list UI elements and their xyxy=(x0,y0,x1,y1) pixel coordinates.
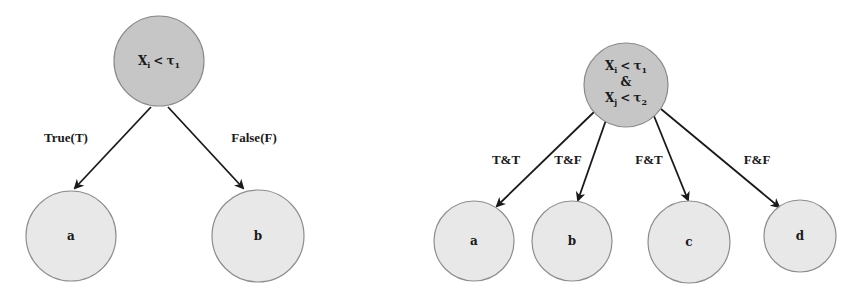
leaf-node-a: a xyxy=(434,201,514,281)
leaf-label: a xyxy=(470,234,478,248)
edge-false xyxy=(168,107,243,188)
var-subscript: j xyxy=(613,97,617,107)
edge-true xyxy=(75,107,151,188)
leaf-node-b: b xyxy=(212,190,304,282)
leaf-label: b xyxy=(254,229,262,243)
edge-label-tf: T&F xyxy=(554,152,582,167)
operator: < xyxy=(153,54,163,68)
leaf-label: d xyxy=(796,229,805,243)
var-subscript: i xyxy=(147,60,150,70)
root-node: Xi<τ1 xyxy=(114,16,204,106)
threshold-subscript: 1 xyxy=(174,60,180,70)
threshold-subscript: 1 xyxy=(641,65,647,75)
root-node: Xi<τ1 & Xj<τ2 xyxy=(584,43,668,127)
root-condition-line2: Xj<τ2 xyxy=(605,91,647,107)
threshold-subscript: 2 xyxy=(641,97,647,107)
threshold: τ xyxy=(633,59,641,73)
leaf-node-a: a xyxy=(26,191,116,281)
leaf-label: c xyxy=(685,235,692,249)
var-subscript: i xyxy=(614,65,617,75)
operator: < xyxy=(620,59,630,73)
leaf-node-b: b xyxy=(532,201,612,281)
threshold: τ xyxy=(166,54,174,68)
binary-split-tree: True(T) False(F) Xi<τ1 a b xyxy=(26,16,304,282)
four-way-split-tree: T&T T&F F&T F&F Xi<τ1 & Xj<τ2 a b c d xyxy=(434,43,836,283)
edge-label-false: False(F) xyxy=(231,130,276,145)
leaf-node-c: c xyxy=(648,201,730,283)
root-condition-joiner: & xyxy=(621,75,632,89)
root-condition: Xi<τ1 xyxy=(138,54,180,70)
leaf-node-d: d xyxy=(764,200,836,272)
root-condition-line1: Xi<τ1 xyxy=(605,59,647,75)
decision-tree-figure: True(T) False(F) Xi<τ1 a b T&T T&F F&T F… xyxy=(0,0,861,301)
edge-label-ff: F&F xyxy=(744,152,771,167)
leaf-label: b xyxy=(568,234,576,248)
edge-tf xyxy=(578,120,606,200)
threshold: τ xyxy=(633,91,641,105)
edge-label-true: True(T) xyxy=(44,130,88,145)
operator: < xyxy=(620,91,630,105)
edge-label-tt: T&T xyxy=(492,152,521,167)
leaf-label: a xyxy=(67,229,75,243)
edge-label-ft: F&T xyxy=(635,152,663,167)
